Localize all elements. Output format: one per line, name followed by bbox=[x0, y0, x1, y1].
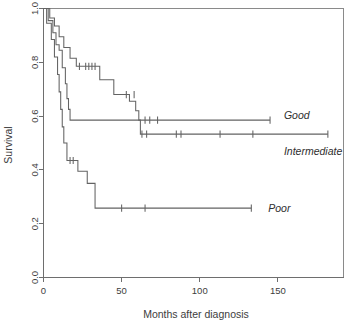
series-labels: GoodIntermediatePoor bbox=[268, 109, 342, 214]
y-tick-label: 0.2 bbox=[29, 217, 40, 230]
series-label-good: Good bbox=[284, 109, 311, 121]
y-axis-tick-labels: 0.00.20.40.60.81.0 bbox=[29, 2, 40, 284]
y-tick-label: 1.0 bbox=[29, 2, 40, 15]
survival-curve-poor bbox=[44, 9, 252, 209]
x-tick-label: 50 bbox=[116, 285, 127, 296]
censoring-marks bbox=[70, 63, 328, 212]
y-axis-title: Survival bbox=[2, 126, 14, 163]
x-axis-title: Months after diagnosis bbox=[143, 308, 249, 320]
y-axis-ticks bbox=[39, 9, 44, 278]
survival-curve-good bbox=[44, 9, 271, 121]
plot-frame bbox=[44, 9, 344, 278]
x-tick-label: 150 bbox=[270, 285, 286, 296]
series-label-poor: Poor bbox=[268, 202, 291, 214]
series-label-intermediate: Intermediate bbox=[284, 145, 343, 157]
x-tick-label: 100 bbox=[192, 285, 208, 296]
y-tick-label: 0.6 bbox=[29, 109, 40, 122]
y-tick-label: 0.0 bbox=[29, 271, 40, 284]
plot-box bbox=[44, 9, 344, 278]
x-tick-label: 0 bbox=[41, 285, 46, 296]
y-tick-label: 0.4 bbox=[29, 163, 40, 176]
kaplan-meier-plot: 050100150 0.00.20.40.60.81.0 GoodInterme… bbox=[0, 0, 352, 326]
x-axis-tick-labels: 050100150 bbox=[41, 285, 286, 296]
x-axis-ticks bbox=[44, 278, 278, 283]
survival-curve-figure: 050100150 0.00.20.40.60.81.0 GoodInterme… bbox=[0, 0, 352, 326]
y-tick-label: 0.8 bbox=[29, 56, 40, 69]
